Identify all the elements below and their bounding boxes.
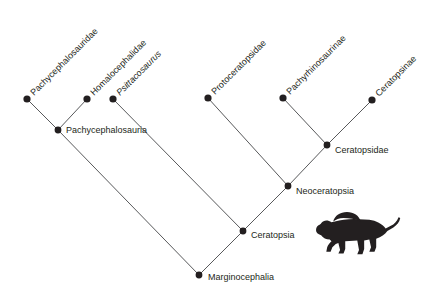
cladogram-figure: PachycephalosauridaeHomalocephalidaePsit…: [0, 0, 430, 300]
tip-label-pachycephalosauridae: Pachycephalosauridae: [28, 26, 99, 97]
tip-label-pachyrhinosaurinae: Pachyrhinosaurinae: [284, 33, 347, 96]
branch-ceratopsia-to-psittacosaurus: [113, 99, 243, 231]
branch-ceratopsidae-to-ceratopsinae: [327, 100, 372, 145]
node-label-neoceratopsia: Neoceratopsia: [296, 186, 354, 196]
internal-node-pachycephalosauria[interactable]: [55, 127, 62, 134]
branch-ceratopsidae-to-pachyrhinosaurinae: [283, 98, 327, 145]
node-labels-group: PachycephalosauriaCeratopsidaeNeoceratop…: [66, 125, 389, 282]
tip-node-pachycephalosauridae[interactable]: [23, 95, 30, 102]
branch-neoceratopsia-to-protoceratopsidae: [208, 98, 288, 186]
tip-node-homalocephalidae[interactable]: [83, 95, 90, 102]
branch-marginocephalia-to-ceratopsia: [199, 231, 243, 275]
branch-pachycephalosauria-to-pachycephalosauridae: [27, 99, 58, 130]
tip-labels-group: PachycephalosauridaeHomalocephalidaePsit…: [28, 26, 418, 98]
node-label-marginocephalia: Marginocephalia: [208, 272, 274, 282]
node-label-ceratopsia: Ceratopsia: [251, 230, 295, 240]
tip-node-pachyrhinosaurinae[interactable]: [279, 94, 286, 101]
internal-node-ceratopsidae[interactable]: [324, 142, 331, 149]
branch-neoceratopsia-to-ceratopsidae: [288, 145, 327, 186]
node-label-pachycephalosauria: Pachycephalosauria: [66, 125, 147, 135]
node-label-ceratopsidae: Ceratopsidae: [335, 145, 389, 155]
cladogram-canvas: PachycephalosauridaeHomalocephalidaePsit…: [0, 0, 430, 300]
internal-node-marginocephalia[interactable]: [196, 272, 203, 279]
internal-node-neoceratopsia[interactable]: [285, 183, 292, 190]
ceratopsian-dinosaur-silhouette: [316, 212, 400, 254]
internal-node-ceratopsia[interactable]: [240, 228, 247, 235]
tip-node-ceratopsinae[interactable]: [368, 96, 375, 103]
tip-label-protoceratopsidae: Protoceratopsidae: [209, 38, 268, 97]
tip-label-ceratopsinae: Ceratopsinae: [373, 53, 418, 98]
tip-node-psittacosaurus[interactable]: [109, 95, 116, 102]
branch-marginocephalia-to-pachycephalosauria: [58, 130, 199, 275]
tip-node-protoceratopsidae[interactable]: [204, 94, 211, 101]
ceratopsian-silhouette: [316, 212, 400, 254]
branch-ceratopsia-to-neoceratopsia: [243, 186, 288, 231]
